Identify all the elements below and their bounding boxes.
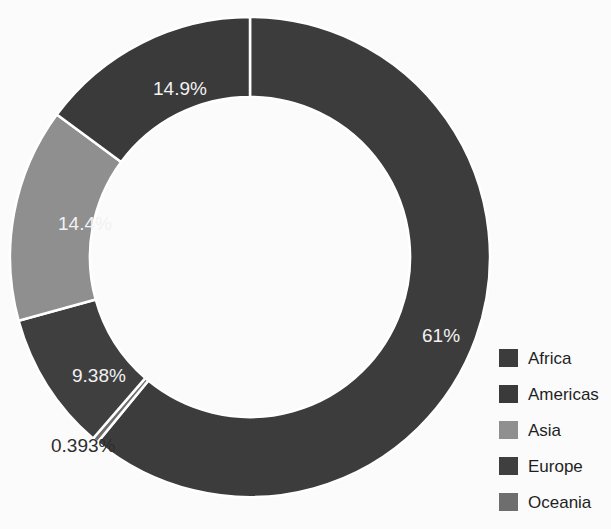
- legend-color-swatch: [499, 421, 518, 439]
- legend-color-swatch: [499, 385, 518, 403]
- slice-data-label: 0.393%: [51, 435, 116, 456]
- donut-chart: 14.9%14.4%9.38%0.393%61% AfricaAmericasA…: [0, 0, 611, 529]
- legend-color-swatch: [499, 349, 518, 367]
- legend-item-label: Americas: [528, 386, 599, 403]
- legend-item-label: Oceania: [528, 494, 591, 511]
- legend-item-oceania[interactable]: Oceania: [499, 484, 611, 520]
- legend-item-label: Asia: [528, 422, 561, 439]
- legend-color-swatch: [499, 493, 518, 511]
- legend-item-europe[interactable]: Europe: [499, 448, 611, 484]
- legend-item-asia[interactable]: Asia: [499, 412, 611, 448]
- chart-legend: AfricaAmericasAsiaEuropeOceania: [499, 340, 611, 520]
- slice-data-label: 9.38%: [72, 365, 126, 386]
- legend-item-africa[interactable]: Africa: [499, 340, 611, 376]
- legend-item-label: Africa: [528, 350, 571, 367]
- slice-data-label: 14.4%: [58, 213, 112, 234]
- legend-item-americas[interactable]: Americas: [499, 376, 611, 412]
- donut-slice-group: [10, 17, 490, 497]
- legend-item-label: Europe: [528, 458, 583, 475]
- slice-data-label: 14.9%: [153, 78, 207, 99]
- legend-color-swatch: [499, 457, 518, 475]
- slice-data-label: 61%: [422, 325, 460, 346]
